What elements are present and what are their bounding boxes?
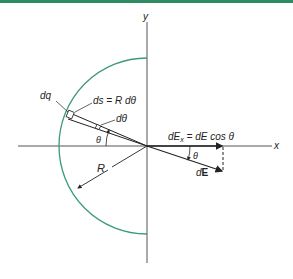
wedge-line-upper: [70, 113, 147, 146]
diagram-canvas: y x dq ds = R dθ dθ θ θ R dEx = dE cos θ…: [0, 0, 293, 279]
radius-line: [112, 146, 147, 167]
semicircle-field-diagram: y x dq ds = R dθ dθ θ θ R dEx = dE cos θ…: [0, 0, 293, 279]
theta-arc-right: [188, 146, 190, 160]
dq-label: dq: [40, 90, 52, 101]
theta-left-label: θ: [96, 135, 101, 145]
dq-leader: [56, 101, 68, 112]
R-label: R: [97, 162, 105, 174]
dE-label: dE: [196, 167, 209, 178]
ds-label: ds = R dθ: [93, 95, 137, 106]
y-axis-label: y: [142, 11, 149, 22]
dEx-label: dEx = dE cos θ: [168, 131, 234, 143]
x-axis-label: x: [273, 140, 280, 151]
theta-right-label: θ: [193, 151, 198, 161]
ds-leader: [75, 103, 92, 112]
dtheta-leader: [101, 120, 115, 125]
dE-vector: [147, 146, 222, 171]
dtheta-label: dθ: [116, 113, 128, 124]
